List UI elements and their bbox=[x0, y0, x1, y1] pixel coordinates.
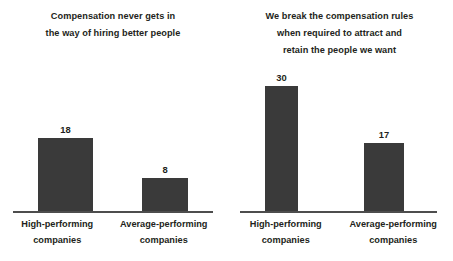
category-label-line: companies bbox=[4, 232, 111, 248]
panel-right-title-line-1: We break the compensation rules bbox=[226, 8, 453, 25]
bar-chart-figure: Compensation never gets in the way of hi… bbox=[0, 0, 453, 261]
bar-left-high-performing: 18 bbox=[38, 138, 93, 211]
x-axis-category-labels-left: High-performing companies Average-perfor… bbox=[4, 216, 217, 248]
panel-right-title-line-2: when required to attract and bbox=[226, 25, 453, 42]
category-label-high-performing: High-performing companies bbox=[232, 216, 340, 248]
panel-right-title: We break the compensation rules when req… bbox=[226, 8, 453, 59]
panel-left-title-line-2: the way of hiring better people bbox=[0, 25, 226, 42]
bar-left-average-performing: 8 bbox=[142, 178, 188, 211]
bar-value-label: 8 bbox=[162, 165, 167, 175]
panel-right-title-line-3: retain the people we want bbox=[226, 42, 453, 59]
category-label-average-performing: Average-performing companies bbox=[340, 216, 448, 248]
bar-right-high-performing: 30 bbox=[265, 86, 298, 211]
x-axis-line-right bbox=[240, 211, 437, 213]
chart-panel-left: Compensation never gets in the way of hi… bbox=[0, 0, 226, 261]
category-label-line: companies bbox=[111, 232, 218, 248]
bar-value-label: 18 bbox=[60, 125, 70, 135]
category-label-line: companies bbox=[340, 232, 448, 248]
panel-left-title-line-1: Compensation never gets in bbox=[0, 8, 226, 25]
x-axis-category-labels-right: High-performing companies Average-perfor… bbox=[232, 216, 447, 248]
category-label-average-performing: Average-performing companies bbox=[111, 216, 218, 248]
plot-area-left: 18 8 bbox=[13, 60, 213, 213]
bar-value-label: 17 bbox=[379, 130, 389, 140]
chart-panel-right: We break the compensation rules when req… bbox=[226, 0, 453, 261]
bar-value-label: 30 bbox=[276, 73, 286, 83]
category-label-line: Average-performing bbox=[111, 216, 218, 232]
x-axis-line-left bbox=[13, 211, 213, 213]
category-label-line: companies bbox=[232, 232, 340, 248]
category-label-line: High-performing bbox=[232, 216, 340, 232]
bar-right-average-performing: 17 bbox=[364, 143, 404, 211]
category-label-high-performing: High-performing companies bbox=[4, 216, 111, 248]
panel-left-title: Compensation never gets in the way of hi… bbox=[0, 8, 226, 42]
plot-area-right: 30 17 bbox=[240, 60, 437, 213]
category-label-line: High-performing bbox=[4, 216, 111, 232]
category-label-line: Average-performing bbox=[340, 216, 448, 232]
